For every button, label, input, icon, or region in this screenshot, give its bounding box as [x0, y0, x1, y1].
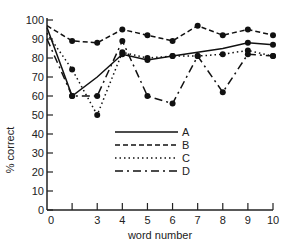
y-tick-label: 0 [38, 204, 44, 216]
y-tick-label: 100 [26, 14, 44, 26]
y-tick-label: 20 [32, 166, 44, 178]
x-tick-label: 0 [48, 214, 54, 226]
plot-area: 01020304050607080901000345678910ABCD [26, 14, 279, 226]
legend-label-b: B [182, 139, 189, 151]
data-point-marker [119, 49, 125, 55]
data-point-marker [195, 53, 201, 59]
data-point-marker [170, 101, 176, 107]
data-point-marker [69, 38, 75, 44]
data-point-marker [144, 32, 150, 38]
y-tick-label: 40 [32, 128, 44, 140]
data-point-marker [220, 89, 226, 95]
y-tick-label: 60 [32, 90, 44, 102]
y-tick-label: 80 [32, 52, 44, 64]
data-point-marker [69, 93, 75, 99]
data-point-marker [220, 32, 226, 38]
legend-label-d: D [182, 165, 190, 177]
x-tick-label: 8 [220, 214, 226, 226]
y-tick-label: 90 [32, 33, 44, 45]
series-line-d [47, 39, 273, 104]
legend-label-c: C [182, 152, 190, 164]
x-tick-label: 6 [169, 214, 175, 226]
data-point-marker [270, 53, 276, 59]
data-point-marker [170, 38, 176, 44]
x-tick-label: 4 [119, 214, 125, 226]
data-point-marker [144, 93, 150, 99]
x-tick-label: 3 [94, 214, 100, 226]
data-point-marker [144, 55, 150, 61]
series-line-b [47, 26, 273, 43]
data-point-marker [94, 112, 100, 118]
y-tick-label: 10 [32, 185, 44, 197]
x-tick-label: 5 [144, 214, 150, 226]
y-tick-label: 70 [32, 71, 44, 83]
data-point-marker [270, 32, 276, 38]
data-point-marker [270, 42, 276, 48]
x-axis-title: word number [127, 229, 193, 241]
data-point-marker [170, 53, 176, 59]
x-tick-label: 7 [195, 214, 201, 226]
data-point-marker [69, 66, 75, 72]
y-tick-label: 30 [32, 147, 44, 159]
data-point-marker [245, 51, 251, 57]
data-point-marker [94, 93, 100, 99]
data-point-marker [119, 38, 125, 44]
y-axis-title: % correct [4, 127, 16, 173]
data-point-marker [220, 51, 226, 57]
data-point-marker [245, 27, 251, 33]
data-point-marker [94, 40, 100, 46]
data-point-marker [245, 40, 251, 46]
data-point-marker [119, 27, 125, 33]
x-tick-label: 9 [245, 214, 251, 226]
x-tick-label: 10 [267, 214, 279, 226]
y-tick-label: 50 [32, 109, 44, 121]
legend-label-a: A [182, 126, 190, 138]
line-chart: 01020304050607080901000345678910ABCD wor… [0, 0, 296, 248]
data-point-marker [195, 23, 201, 29]
